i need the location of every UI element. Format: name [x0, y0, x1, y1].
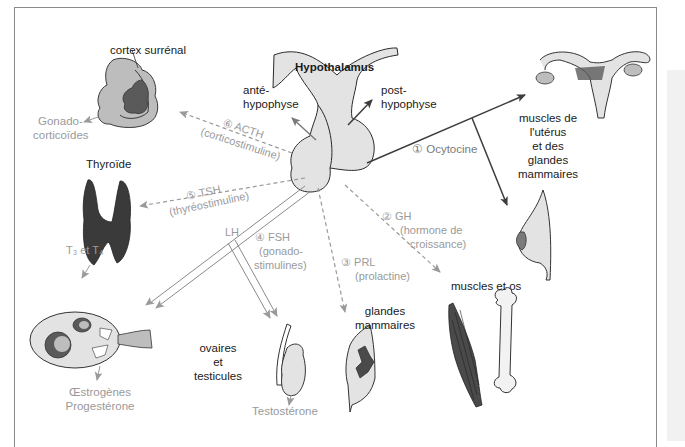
mammary-label-line1: glandes [350, 304, 420, 318]
ocytocine-arrow-breast [472, 118, 507, 205]
uterus-illustration [536, 52, 650, 118]
hormone-3-detail: (prolactine) [355, 270, 410, 284]
post-hypophyse-label-line2: hypophyse [381, 97, 437, 111]
muscles-et-os-label: muscles et os [451, 279, 521, 293]
thyroide-label: Thyroïde [86, 157, 131, 171]
muscle-illustration [449, 303, 482, 407]
breast-illustration [516, 190, 550, 280]
progesterone-label: Progestérone [55, 399, 145, 413]
testis-illustration [277, 324, 306, 396]
hormone-4-detail-line2: stimulines) [254, 259, 307, 273]
uterus-label-line2: l'utérus [508, 125, 588, 139]
hormone-2-number: ② [382, 210, 392, 222]
gonads-label-block: ovaires et testicules [188, 341, 248, 383]
hormone-4-number: ④ [255, 231, 265, 243]
hormone-1-name: Ocytocine [426, 143, 477, 155]
oestrogenes-label: Œstrogènes [55, 385, 145, 399]
ovary-illustration [30, 312, 152, 368]
hormone-2-label: ② GH [382, 210, 412, 224]
cortex-surrenal-label: cortex surrénal [110, 43, 186, 57]
ovary-secretion-block: Œstrogènes Progestérone [55, 385, 145, 413]
hormone-2-detail-line2: croissance) [410, 238, 466, 252]
gonadocorticoides-line1: Gonado- [38, 114, 83, 128]
gonads-label-line3: testicules [188, 369, 248, 383]
post-hypophyse-label-line1: post- [381, 83, 407, 97]
hormone-4-detail-line1: (gonado- [259, 245, 303, 259]
mammary-gland-illustration [346, 325, 375, 412]
hormone-2-name: GH [395, 210, 412, 222]
hormone-4-name: FSH [268, 231, 290, 243]
adrenal-cortex-illustration [98, 50, 158, 128]
gonads-label-line1: ovaires [188, 341, 248, 355]
uterus-label-block: muscles de l'utérus et des glandes mamma… [508, 111, 588, 181]
hormone-3-label: ③ PRL [341, 256, 375, 270]
hormone-1-number: ① [412, 143, 423, 155]
t3-t4-label: T₃ et T₄ [66, 244, 104, 258]
hormone-2-detail-line1: (hormone de [400, 224, 462, 238]
uterus-label-line4: glandes [508, 153, 588, 167]
hormone-3-number: ③ [341, 256, 351, 268]
ante-hypophyse-label-line2: hypophyse [243, 97, 299, 111]
mammary-label-line2: mammaires [350, 318, 420, 332]
hormone-3-name: PRL [354, 256, 375, 268]
uterus-label-line3: et des [508, 139, 588, 153]
gonadocorticoides-line2: corticoïdes [33, 128, 89, 142]
hypothalamus-label: Hypothalamus [295, 60, 374, 74]
hormone-1-label: ① Ocytocine [412, 142, 477, 156]
uterus-label-line5: mammaires [508, 167, 588, 181]
gonads-label-line2: et [188, 355, 248, 369]
testosterone-label: Testostérone [252, 404, 318, 418]
prl-arrow [318, 188, 345, 312]
lh-label: LH [225, 226, 239, 240]
ante-hypophyse-label-line1: anté- [243, 83, 269, 97]
mammary-label-block: glandes mammaires [350, 304, 420, 332]
uterus-label-line1: muscles de [508, 111, 588, 125]
hormone-4-label: ④ FSH [255, 231, 290, 245]
bone-illustration [494, 288, 516, 393]
